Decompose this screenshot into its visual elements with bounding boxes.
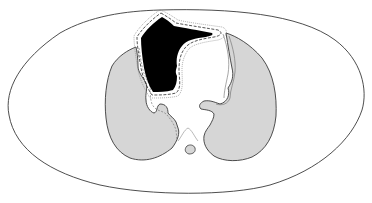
- mediastinal-mass: [141, 17, 213, 92]
- posterior-mediastinum-line: [178, 128, 198, 141]
- left-lung: [200, 33, 277, 161]
- thorax-cross-section-diagram: [0, 0, 372, 203]
- spinal-canal: [185, 145, 195, 154]
